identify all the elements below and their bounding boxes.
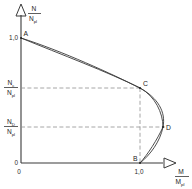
y-tick-nc-num-sub: c: [12, 83, 15, 88]
curves-group: [21, 38, 164, 163]
point-labels-group: A C D B: [24, 30, 172, 162]
x-tick-label-one: 1,0: [135, 168, 144, 175]
y-axis-origin-label: 0: [14, 159, 18, 166]
x-axis-origin-label: 0: [17, 168, 21, 175]
y-tick-nc-denominator: Npl: [7, 89, 15, 98]
point-label-D: D: [166, 124, 171, 131]
x-axis-label-den-sub: pl: [181, 182, 184, 187]
point-label-A: A: [24, 30, 29, 37]
plot-canvas: A C D B N Npl M Mpl 1,0 Nc: [0, 0, 192, 189]
y-tick-nd-den-sub: pl: [12, 132, 15, 137]
point-label-B: B: [133, 155, 138, 162]
y-axis-label-denominator: Npl: [29, 15, 37, 24]
inner-interaction-curve: [21, 38, 163, 163]
y-tick-nc-numerator: Nc: [8, 79, 16, 88]
point-label-C: C: [143, 80, 148, 87]
axis-group: [16, 4, 176, 168]
y-tick-nd-numerator: ND: [7, 118, 15, 127]
triangle-right-icon: [164, 158, 176, 168]
guide-lines-group: [21, 88, 165, 163]
x-axis-label-numerator: M: [178, 168, 184, 175]
y-tick-nd-denominator: Npl: [7, 128, 15, 137]
outer-interaction-curve: [21, 38, 164, 163]
point-D-marker: [162, 126, 164, 128]
y-tick-nc-den-sub: pl: [12, 93, 15, 98]
m-n-interaction-diagram: A C D B N Npl M Mpl 1,0 Nc: [0, 0, 192, 189]
y-tick-nd-num-sub: D: [12, 122, 15, 127]
point-markers-group: [20, 37, 164, 164]
y-tick-label-nd: ND Npl: [4, 118, 18, 137]
point-B-marker: [139, 162, 141, 164]
x-axis-label: M Mpl: [175, 168, 189, 187]
y-axis-label-numerator: N: [32, 5, 37, 12]
triangle-up-icon: [16, 4, 26, 16]
y-tick-label-nc: Nc Npl: [4, 79, 18, 98]
point-A-marker: [20, 37, 22, 39]
y-axis-label-den-sub: pl: [34, 19, 37, 24]
y-tick-label-one: 1,0: [9, 34, 18, 41]
point-C-marker: [139, 87, 141, 89]
x-axis-label-denominator: Mpl: [176, 178, 185, 187]
y-axis-label: N Npl: [28, 5, 41, 24]
